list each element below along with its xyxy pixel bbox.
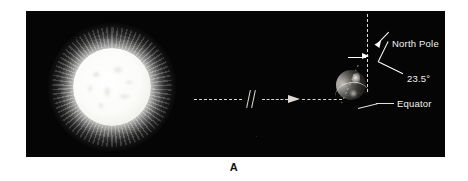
equator-leader-line — [358, 97, 394, 111]
label-north-pole: North Pole — [392, 38, 439, 49]
sun-surface-mottling — [73, 48, 151, 126]
label-tilt-angle: 23.5° — [407, 73, 430, 84]
sight-line-segment-middle — [262, 99, 288, 100]
sight-line-arrowhead-icon — [288, 95, 300, 103]
distance-break-symbol — [244, 90, 260, 108]
sight-line-segment-left — [194, 99, 242, 100]
north-pole-arrowhead-icon — [375, 39, 384, 48]
solar-tilt-figure: North Pole 23.5° Equator A — [0, 0, 468, 181]
figure-caption: A — [0, 161, 468, 173]
tilt-arrowhead-icon — [362, 53, 369, 59]
label-equator: Equator — [397, 98, 432, 109]
sun — [48, 23, 176, 151]
space-panel: North Pole 23.5° Equator — [26, 11, 445, 157]
angle-leg-lower — [378, 61, 404, 74]
